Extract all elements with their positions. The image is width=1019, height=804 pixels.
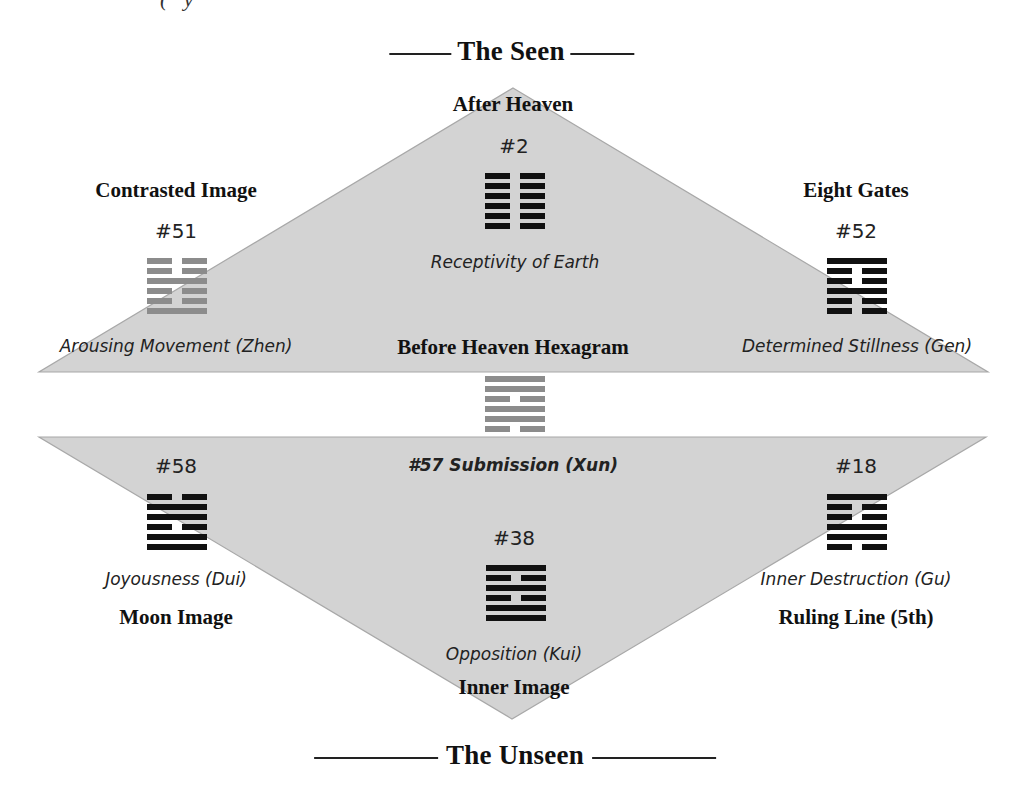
line-segment xyxy=(862,278,887,284)
hexagram-52-name: Determined Stillness (Gen) xyxy=(742,336,972,356)
solid-line xyxy=(147,278,207,284)
broken-line xyxy=(827,278,887,284)
line-segment xyxy=(147,504,207,510)
hexagram-51-name: Arousing Movement (Zhen) xyxy=(60,336,293,356)
line-segment xyxy=(827,308,852,314)
line-segment xyxy=(147,514,207,520)
broken-line xyxy=(147,288,207,294)
solid-line xyxy=(147,308,207,314)
hexagram-58-number: #58 xyxy=(155,454,197,478)
solid-line xyxy=(827,534,887,540)
solid-line xyxy=(485,386,545,392)
solid-line xyxy=(147,504,207,510)
hexagram-38-number: #38 xyxy=(493,526,535,550)
solid-line xyxy=(486,615,546,621)
line-segment xyxy=(827,514,852,520)
hexagram-57-label: #57 Submission (Xun) xyxy=(408,455,618,475)
line-segment xyxy=(485,426,510,432)
broken-line xyxy=(486,575,546,581)
line-segment xyxy=(486,585,546,591)
broken-line xyxy=(827,268,887,274)
contrasted-image-label: Contrasted Image xyxy=(95,178,257,203)
line-segment xyxy=(520,173,545,179)
broken-line xyxy=(147,268,207,274)
line-segment xyxy=(827,494,887,500)
line-segment xyxy=(147,298,172,304)
broken-line xyxy=(485,426,545,432)
solid-line xyxy=(485,416,545,422)
before-heaven-label: Before Heaven Hexagram xyxy=(397,335,629,360)
line-segment xyxy=(520,183,545,189)
line-segment xyxy=(827,278,852,284)
line-segment xyxy=(486,575,511,581)
broken-line xyxy=(486,595,546,601)
line-segment xyxy=(520,223,545,229)
broken-line xyxy=(827,514,887,520)
line-segment xyxy=(486,615,546,621)
hexagram-52-number: #52 xyxy=(835,219,877,243)
line-segment xyxy=(485,376,545,382)
line-segment xyxy=(485,203,510,209)
line-segment xyxy=(486,595,511,601)
hexagram-2-icon xyxy=(485,173,545,233)
broken-line xyxy=(827,308,887,314)
broken-line xyxy=(485,203,545,209)
hexagram-51-icon xyxy=(147,258,207,318)
inner-image-label: Inner Image xyxy=(458,675,569,700)
line-segment xyxy=(485,416,545,422)
line-segment xyxy=(182,268,207,274)
hexagram-2-number: #2 xyxy=(499,134,528,158)
eight-gates-label: Eight Gates xyxy=(803,178,909,203)
solid-line xyxy=(147,544,207,550)
line-segment xyxy=(147,308,207,314)
after-heaven-label: After Heaven xyxy=(453,92,573,117)
solid-line xyxy=(485,406,545,412)
broken-line xyxy=(485,396,545,402)
hexagram-58-icon xyxy=(147,494,207,554)
broken-line xyxy=(485,173,545,179)
line-segment xyxy=(485,396,510,402)
hexagram-18-name: Inner Destruction (Gu) xyxy=(761,569,952,589)
line-segment xyxy=(827,504,852,510)
hexagram-52-icon xyxy=(827,258,887,318)
line-segment xyxy=(827,298,852,304)
line-segment xyxy=(827,258,887,264)
line-segment xyxy=(485,406,545,412)
solid-line xyxy=(827,288,887,294)
broken-line xyxy=(147,298,207,304)
broken-line xyxy=(147,524,207,530)
line-segment xyxy=(520,396,545,402)
line-segment xyxy=(862,268,887,274)
title-rule-right xyxy=(571,53,635,55)
hexagram-51-number: #51 xyxy=(155,219,197,243)
seen-title-text: The Seen xyxy=(457,36,564,66)
solid-line xyxy=(827,494,887,500)
line-segment xyxy=(827,534,887,540)
solid-line xyxy=(147,534,207,540)
line-segment xyxy=(485,173,510,179)
line-segment xyxy=(862,544,887,550)
hexagram-18-icon xyxy=(827,494,887,554)
line-segment xyxy=(485,223,510,229)
unseen-title-text: The Unseen xyxy=(446,740,584,770)
broken-line xyxy=(485,183,545,189)
solid-line xyxy=(486,565,546,571)
broken-line xyxy=(485,223,545,229)
solid-line xyxy=(147,514,207,520)
line-segment xyxy=(521,575,546,581)
line-segment xyxy=(862,298,887,304)
line-segment xyxy=(147,524,172,530)
line-segment xyxy=(827,288,887,294)
line-segment xyxy=(862,308,887,314)
line-segment xyxy=(862,504,887,510)
line-segment xyxy=(485,183,510,189)
solid-line xyxy=(485,376,545,382)
hexagram-57-icon xyxy=(485,376,545,436)
footer-rule-left xyxy=(314,757,438,759)
line-segment xyxy=(182,288,207,294)
line-segment xyxy=(521,595,546,601)
line-segment xyxy=(485,386,545,392)
footer-rule-right xyxy=(592,757,716,759)
hexagram-18-number: #18 xyxy=(835,454,877,478)
line-segment xyxy=(147,534,207,540)
